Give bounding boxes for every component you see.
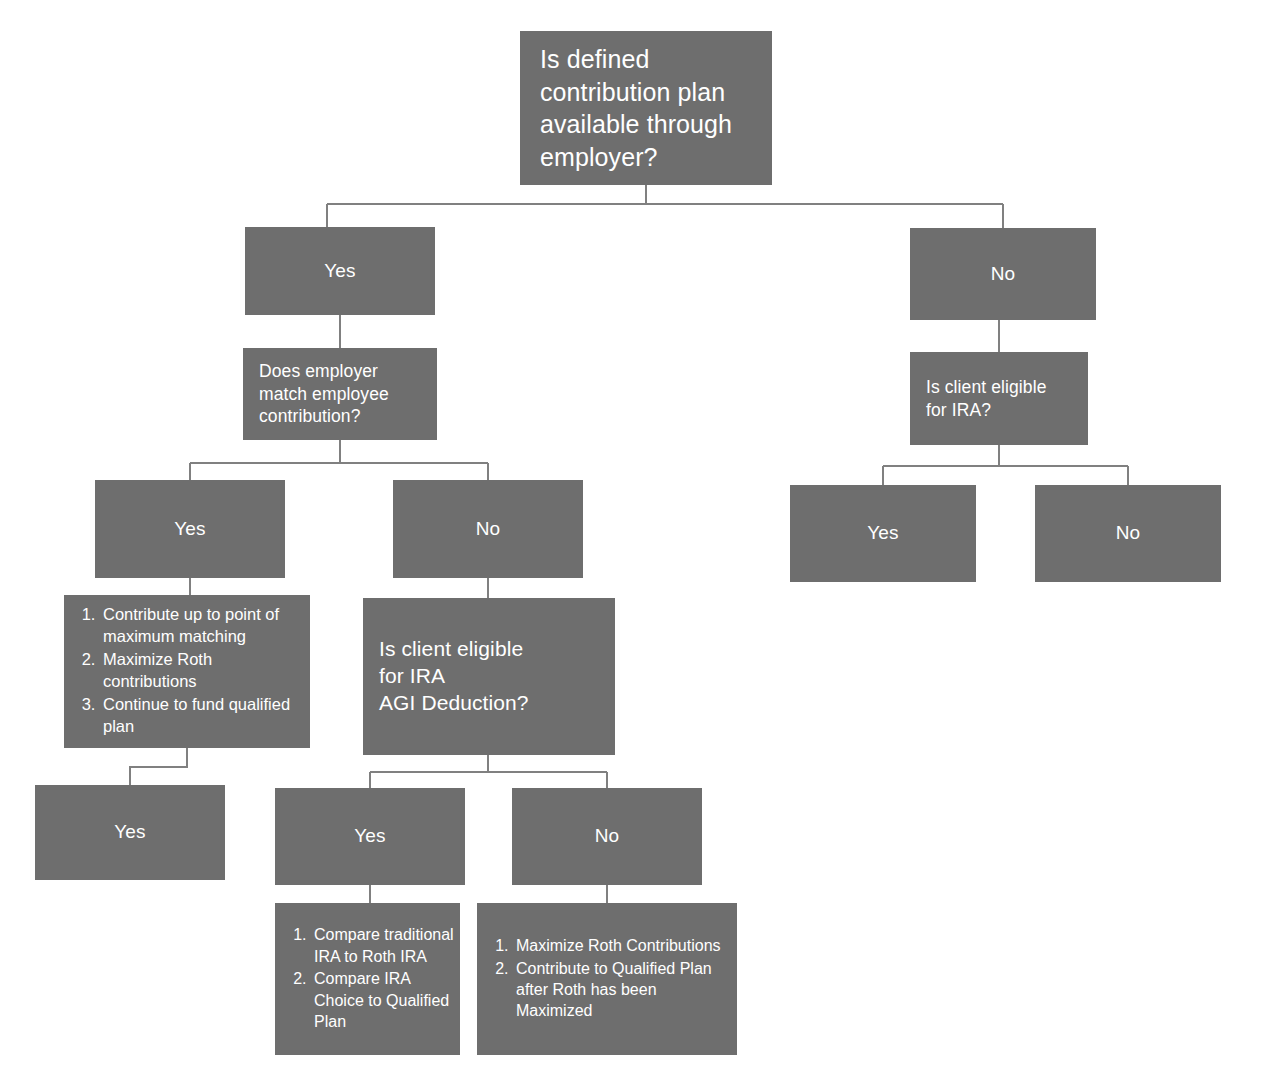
- node-l1-no[interactable]: No: [910, 228, 1096, 320]
- agi-no-action-list: Maximize Roth Contributions Contribute t…: [491, 935, 731, 1023]
- node-employer-match-question[interactable]: Does employer match employee contributio…: [243, 348, 437, 440]
- list-item: Contribute to Qualified Plan after Roth …: [513, 958, 731, 1022]
- node-match-yes-actions-yes[interactable]: Yes: [35, 785, 225, 880]
- node-ira-no-label: No: [1116, 521, 1141, 545]
- node-match-no-label: No: [476, 517, 501, 541]
- node-agi-deduction-question[interactable]: Is client eligible for IRA AGI Deduction…: [363, 598, 615, 755]
- node-agi-deduction-text: Is client eligible for IRA AGI Deduction…: [379, 636, 529, 717]
- node-employer-match-text: Does employer match employee contributio…: [259, 360, 389, 427]
- list-item: Compare traditional IRA to Roth IRA: [311, 924, 454, 967]
- node-match-yes-actions[interactable]: Contribute up to point of maximum matchi…: [64, 595, 310, 748]
- node-l1-no-label: No: [991, 262, 1016, 286]
- node-ira-eligible-text: Is client eligible for IRA?: [926, 376, 1046, 421]
- node-root-question[interactable]: Is defined contribution plan available t…: [520, 31, 772, 185]
- agi-yes-action-list: Compare traditional IRA to Roth IRA Comp…: [289, 924, 454, 1033]
- node-match-yes[interactable]: Yes: [95, 480, 285, 578]
- list-item: Contribute up to point of maximum matchi…: [100, 604, 304, 648]
- list-item: Continue to fund qualified plan: [100, 694, 304, 738]
- node-root-text: Is defined contribution plan available t…: [540, 43, 732, 173]
- node-agi-no-actions[interactable]: Maximize Roth Contributions Contribute t…: [477, 903, 737, 1055]
- node-ira-yes-label: Yes: [867, 521, 899, 545]
- node-match-no[interactable]: No: [393, 480, 583, 578]
- edge-actions-to-yes: [130, 748, 187, 785]
- node-agi-yes-label: Yes: [354, 824, 386, 848]
- node-agi-no[interactable]: No: [512, 788, 702, 885]
- node-l1-yes-label: Yes: [324, 259, 356, 283]
- list-item: Maximize Roth Contributions: [513, 935, 731, 956]
- flowchart-canvas: Is defined contribution plan available t…: [0, 0, 1261, 1090]
- node-agi-yes-actions[interactable]: Compare traditional IRA to Roth IRA Comp…: [275, 903, 460, 1055]
- node-l1-yes[interactable]: Yes: [245, 227, 435, 315]
- node-ira-eligible-question[interactable]: Is client eligible for IRA?: [910, 352, 1088, 445]
- match-yes-action-list: Contribute up to point of maximum matchi…: [78, 604, 304, 739]
- node-match-yes-actions-yes-label: Yes: [114, 820, 146, 844]
- list-item: Compare IRA Choice to Qualified Plan: [311, 968, 454, 1032]
- node-ira-yes[interactable]: Yes: [790, 485, 976, 582]
- node-agi-no-label: No: [595, 824, 620, 848]
- list-item: Maximize Roth contributions: [100, 649, 304, 693]
- node-match-yes-label: Yes: [174, 517, 206, 541]
- node-ira-no[interactable]: No: [1035, 485, 1221, 582]
- node-agi-yes[interactable]: Yes: [275, 788, 465, 885]
